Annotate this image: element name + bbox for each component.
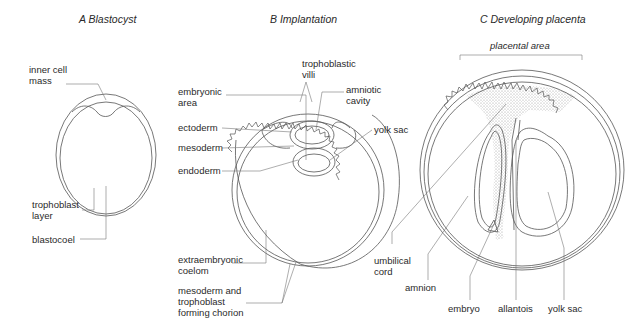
yolk-sac-inner: [298, 154, 330, 172]
leader-umbilical-cord: [392, 104, 506, 244]
panel-title-implantation: B Implantation: [270, 13, 337, 25]
label-yolk-sac-b: yolk sac: [374, 124, 408, 135]
placental-area-bracket: [460, 55, 582, 60]
placenta-drawing: [392, 55, 624, 300]
yolk-sac-outer: [510, 128, 574, 236]
label-mesoderm: mesoderm: [178, 142, 223, 153]
panel-title-placenta: C Developing placenta: [480, 13, 586, 25]
amniotic-cavity-outer: [290, 121, 334, 149]
implantation-drawing: [222, 82, 399, 303]
panel-title-blastocyst: A Blastocyst: [79, 13, 136, 25]
label-endoderm: endoderm: [178, 165, 221, 176]
label-chorion: mesoderm and trophoblast forming chorion: [178, 285, 243, 318]
label-yolk-sac-c: yolk sac: [548, 303, 582, 314]
label-ectoderm: ectoderm: [178, 122, 218, 133]
yolk-sac-inner: [517, 138, 567, 229]
label-inner-cell-mass: inner cell mass: [29, 64, 67, 86]
label-trophoblast-layer: trophoblast layer: [32, 199, 79, 221]
label-embryonic-area: embryonic area: [178, 86, 222, 108]
label-extraembryonic-coelom: extraembryonic coelom: [178, 254, 243, 276]
chorion-outer: [232, 114, 384, 266]
leader-trophoblast-layer: [82, 188, 94, 210]
trophoblast-ragged: [235, 115, 399, 268]
chorion-inner: [237, 121, 379, 263]
label-blastocoel: blastocoel: [32, 234, 75, 245]
label-umbilical-cord: umbilical cord: [374, 255, 411, 277]
label-embryo: embryo: [448, 303, 480, 314]
leader-endoderm: [222, 160, 298, 171]
label-allantois: allantois: [498, 303, 533, 314]
leader-amnion: [428, 196, 468, 280]
label-trophoblastic-villi: trophoblastic villi: [302, 58, 356, 80]
leader-blastocoel: [80, 186, 106, 239]
leader-chorion: [246, 262, 296, 303]
inner-cell-mass: [72, 106, 140, 117]
leader-inner-cell-mass: [66, 84, 106, 100]
leader-yolk-sac: [548, 192, 564, 300]
amniotic-cavity-inner: [295, 126, 329, 144]
label-placental-area: placental area: [490, 40, 550, 51]
leader-yolk-sac: [330, 130, 372, 160]
label-amnion: amnion: [405, 282, 436, 293]
label-amniotic-cavity: amniotic cavity: [346, 84, 381, 106]
